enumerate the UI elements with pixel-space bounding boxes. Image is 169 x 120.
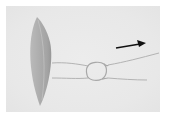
knot-loop: [86, 62, 108, 80]
cell-body: [30, 17, 51, 106]
arrow-right-icon: [116, 40, 146, 48]
micrograph-content: [0, 0, 169, 120]
